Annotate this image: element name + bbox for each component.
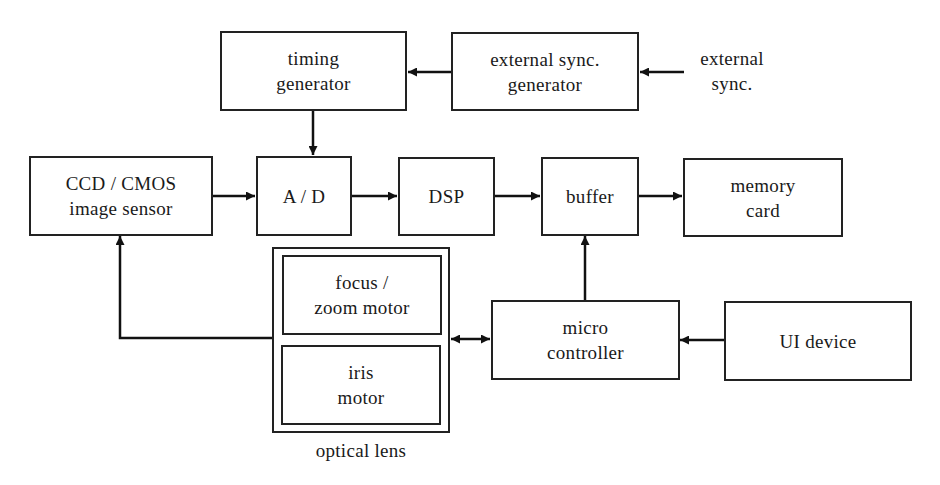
focus-zoom-label-2: zoom motor bbox=[314, 295, 409, 320]
optical-lens-group: focus / zoom motor iris motor bbox=[272, 247, 450, 433]
external-sync-generator-label-1: external sync. bbox=[490, 47, 600, 72]
focus-zoom-label-1: focus / bbox=[335, 270, 388, 295]
memory-card-label-1: memory bbox=[730, 173, 795, 198]
dsp-label: DSP bbox=[429, 184, 465, 209]
ad-label: A / D bbox=[283, 184, 326, 209]
buffer-label: buffer bbox=[566, 184, 614, 209]
focus-zoom-motor-block: focus / zoom motor bbox=[282, 255, 442, 335]
memory-card-block: memory card bbox=[683, 158, 843, 237]
micro-controller-block: micro controller bbox=[491, 300, 680, 380]
iris-motor-label-2: motor bbox=[338, 385, 385, 410]
external-sync-label-1: external bbox=[686, 46, 778, 71]
external-sync-generator-label-2: generator bbox=[508, 72, 582, 97]
micro-controller-label-1: micro bbox=[563, 315, 609, 340]
timing-generator-block: timing generator bbox=[220, 31, 407, 111]
ad-converter-block: A / D bbox=[256, 156, 352, 236]
arrow-lens-to-ccd bbox=[120, 236, 272, 338]
external-sync-label-2: sync. bbox=[686, 71, 778, 96]
iris-motor-block: iris motor bbox=[281, 345, 441, 425]
ui-device-label: UI device bbox=[779, 329, 856, 354]
buffer-block: buffer bbox=[541, 157, 639, 236]
ccd-cmos-label-2: image sensor bbox=[69, 196, 172, 221]
ccd-cmos-image-sensor-block: CCD / CMOS image sensor bbox=[29, 156, 213, 236]
memory-card-label-2: card bbox=[746, 198, 780, 223]
ccd-cmos-label-1: CCD / CMOS bbox=[66, 171, 177, 196]
ui-device-block: UI device bbox=[724, 301, 912, 381]
timing-generator-label-1: timing bbox=[288, 46, 339, 71]
optical-lens-label: optical lens bbox=[272, 438, 450, 463]
external-sync-input-label: external sync. bbox=[686, 46, 778, 96]
iris-motor-label-1: iris bbox=[348, 360, 373, 385]
micro-controller-label-2: controller bbox=[547, 340, 624, 365]
timing-generator-label-2: generator bbox=[276, 71, 350, 96]
external-sync-generator-block: external sync. generator bbox=[451, 32, 639, 111]
dsp-block: DSP bbox=[398, 157, 495, 236]
